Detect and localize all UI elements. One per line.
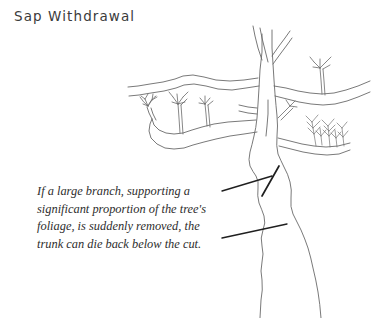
left-long-branch-bottom	[129, 84, 259, 96]
leaf-sprout-cluster-left	[140, 94, 157, 106]
pruning-cut-mark	[262, 166, 279, 196]
trunk-inner-line	[266, 100, 268, 136]
tree-illustration	[0, 0, 380, 318]
leaf-sprout-cluster-third	[199, 96, 213, 127]
left-mid-branch-top	[152, 119, 256, 134]
right-lower-branch-bottom	[279, 146, 350, 155]
leaf-sprout-trunk	[278, 100, 297, 120]
trunk-left-edge	[249, 34, 265, 318]
leader-line-to-cut	[222, 176, 272, 191]
left-long-branch-top	[128, 75, 258, 87]
small-branch-left-top	[239, 105, 257, 108]
right-lower-branch-top	[278, 138, 350, 147]
leaf-sprout-cluster-right	[310, 57, 331, 95]
trunk-right-edge	[272, 30, 321, 318]
twig-cluster	[306, 115, 348, 147]
caption-text: If a large branch, supporting a signific…	[37, 183, 217, 253]
upper-fork-right	[272, 31, 290, 56]
left-mid-branch-bottom	[149, 119, 257, 149]
leader-lines	[222, 176, 287, 238]
caption-line: foliage, is suddenly removed, the	[37, 218, 217, 236]
caption-line: If a large branch, supporting a	[37, 183, 217, 201]
leaf-sprout-cluster-mid	[169, 92, 188, 134]
sap-withdrawal-figure: Sap Withdrawal	[0, 0, 380, 318]
leader-line-to-trunk	[222, 224, 287, 238]
caption-line: significant proportion of the tree's	[37, 201, 217, 219]
caption-line: trunk can die back below the cut.	[37, 236, 217, 254]
small-branch-left-bottom	[239, 111, 257, 114]
